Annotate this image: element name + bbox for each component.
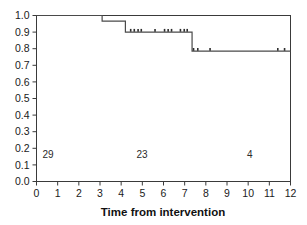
at-risk-annotations-group: 29234 [42,149,253,160]
y-axis-tick-label: 0.0 [15,175,30,187]
x-axis-tick-label: 9 [224,187,230,199]
x-axis-title: Time from intervention [101,206,225,218]
y-axis-tick-label: 0.6 [15,76,30,88]
x-axis-tick-label: 8 [203,187,209,199]
x-axis-tick-label: 10 [242,187,254,199]
survival-curve-group [37,16,291,52]
at-risk-count-label: 4 [247,149,253,160]
x-axis-tick-label: 12 [285,187,297,199]
x-axis-tick-label: 4 [118,187,124,199]
x-axis-tick-label: 7 [182,187,188,199]
y-axis-tick-label: 0.7 [15,59,30,71]
x-axis-tick-label: 11 [264,187,275,199]
x-axis-tick-label: 0 [34,187,40,199]
x-axis-ticks [37,182,291,186]
y-axis-tick-label: 0.1 [15,159,30,171]
y-axis-tick-label: 0.8 [15,42,30,54]
x-axis-tick-labels: 0123456789101112 [34,187,297,199]
x-axis-tick-label: 6 [161,187,167,199]
y-axis-tick-label: 0.9 [15,26,30,38]
kaplan-meier-plot: 0.00.10.20.30.40.50.60.70.80.91.0 012345… [0,0,307,225]
x-axis-tick-label: 3 [97,187,103,199]
at-risk-count-label: 23 [136,149,148,160]
y-axis-tick-label: 0.3 [15,125,30,137]
y-axis-tick-label: 0.5 [15,92,30,104]
y-axis-tick-label: 1.0 [15,9,30,21]
survival-chart-figure: 0.00.10.20.30.40.50.60.70.80.91.0 012345… [0,0,307,225]
survival-step-line [37,16,291,52]
y-axis-tick-label: 0.2 [15,142,30,154]
y-axis-tick-labels: 0.00.10.20.30.40.50.60.70.80.91.0 [15,9,30,187]
y-axis-ticks [33,16,37,182]
x-axis-tick-label: 2 [76,187,82,199]
at-risk-count-label: 29 [42,149,54,160]
y-axis-tick-label: 0.4 [15,109,30,121]
x-axis-tick-label: 5 [139,187,145,199]
x-axis-tick-label: 1 [55,187,61,199]
